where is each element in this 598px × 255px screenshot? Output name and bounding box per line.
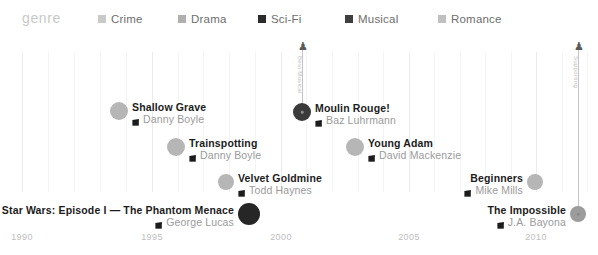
point-label-group: Star Wars: Episode I — The Phantom Menac… bbox=[2, 204, 234, 228]
gridline bbox=[511, 52, 512, 192]
data-point[interactable] bbox=[293, 103, 311, 121]
gridline bbox=[434, 52, 435, 192]
point-label-group: Shallow GraveDanny Boyle bbox=[132, 101, 206, 125]
director-line: David Mackenzie bbox=[368, 149, 461, 161]
director-name: Mike Mills bbox=[475, 184, 523, 196]
legend-swatch-icon bbox=[345, 15, 353, 23]
movie-title: Beginners bbox=[464, 172, 523, 184]
data-point[interactable] bbox=[167, 138, 185, 156]
legend-item-label: Romance bbox=[451, 13, 502, 25]
director-line: Danny Boyle bbox=[132, 113, 206, 125]
legend-item-label: Drama bbox=[191, 13, 227, 25]
award-caption: Best Musical bbox=[297, 56, 303, 94]
data-point[interactable] bbox=[570, 206, 586, 222]
axis-tick-label: 1995 bbox=[141, 232, 163, 242]
legend-swatch-icon bbox=[438, 15, 446, 23]
gridline bbox=[409, 52, 410, 192]
gridline bbox=[48, 52, 49, 192]
director-line: Mike Mills bbox=[464, 184, 523, 196]
clapperboard-icon bbox=[238, 186, 246, 194]
legend-item-sci-fi[interactable]: Sci-Fi bbox=[258, 13, 302, 25]
clapperboard-icon bbox=[464, 186, 472, 194]
award-trophy-icon: ♟ bbox=[574, 41, 584, 52]
award-connector-line: ♟Best Musical bbox=[302, 42, 303, 112]
clapperboard-icon bbox=[368, 151, 376, 159]
director-line: Baz Luhrmann bbox=[315, 114, 396, 126]
data-point[interactable] bbox=[527, 174, 543, 190]
legend-swatch-icon bbox=[178, 15, 186, 23]
legend-item-label: Crime bbox=[111, 13, 143, 25]
director-line: Danny Boyle bbox=[189, 149, 261, 161]
gridline bbox=[255, 52, 256, 192]
axis-tick-label: 2005 bbox=[398, 232, 420, 242]
gridline bbox=[536, 52, 537, 192]
gridline bbox=[126, 52, 127, 192]
timeline-plot: Shallow GraveDanny BoyleTrainspottingDan… bbox=[0, 34, 598, 230]
clapperboard-icon bbox=[189, 151, 197, 159]
movie-title: Young Adam bbox=[368, 137, 461, 149]
point-label-group: The ImpossibleJ.A. Bayona bbox=[487, 204, 566, 228]
point-label-group: Moulin Rouge!Baz Luhrmann bbox=[315, 102, 396, 126]
axis-tick-label: 1990 bbox=[11, 232, 33, 242]
point-label-group: Velvet GoldmineTodd Haynes bbox=[238, 172, 322, 196]
data-point-center bbox=[301, 111, 304, 114]
gridline bbox=[460, 52, 461, 192]
legend-swatch-icon bbox=[258, 15, 266, 23]
gridline bbox=[306, 52, 307, 192]
movie-title: Star Wars: Episode I — The Phantom Menac… bbox=[2, 204, 234, 216]
clapperboard-icon bbox=[155, 218, 163, 226]
movie-title: Shallow Grave bbox=[132, 101, 206, 113]
director-name: David Mackenzie bbox=[379, 149, 461, 161]
point-label-group: BeginnersMike Mills bbox=[464, 172, 523, 196]
clapperboard-icon bbox=[132, 115, 140, 123]
data-point[interactable] bbox=[346, 138, 364, 156]
axis-tick-label: 2010 bbox=[525, 232, 547, 242]
gridline bbox=[100, 52, 101, 192]
award-caption: Supporting bbox=[573, 56, 579, 88]
gridline bbox=[22, 52, 23, 192]
clapperboard-icon bbox=[315, 116, 323, 124]
data-point[interactable] bbox=[218, 174, 234, 190]
director-line: Todd Haynes bbox=[238, 184, 322, 196]
award-trophy-icon: ♟ bbox=[298, 41, 308, 52]
legend-item-label: Sci-Fi bbox=[271, 13, 302, 25]
gridline bbox=[74, 52, 75, 192]
director-name: Baz Luhrmann bbox=[326, 114, 396, 126]
point-label-group: Young AdamDavid Mackenzie bbox=[368, 137, 461, 161]
legend-item-musical[interactable]: Musical bbox=[345, 13, 398, 25]
legend-title: genre bbox=[22, 10, 61, 26]
data-point-center bbox=[577, 213, 580, 216]
legend-swatch-icon bbox=[98, 15, 106, 23]
gridline bbox=[587, 52, 588, 192]
legend-item-romance[interactable]: Romance bbox=[438, 13, 502, 25]
director-name: Todd Haynes bbox=[249, 184, 312, 196]
legend-item-label: Musical bbox=[358, 13, 398, 25]
director-name: George Lucas bbox=[166, 216, 234, 228]
movie-title: The Impossible bbox=[487, 204, 566, 216]
axis-tick-label: 2000 bbox=[270, 232, 292, 242]
legend-item-drama[interactable]: Drama bbox=[178, 13, 227, 25]
award-connector-line: ♟Supporting bbox=[578, 42, 579, 214]
legend-item-crime[interactable]: Crime bbox=[98, 13, 143, 25]
movie-title: Velvet Goldmine bbox=[238, 172, 322, 184]
director-name: Danny Boyle bbox=[200, 149, 261, 161]
movie-title: Trainspotting bbox=[189, 137, 261, 149]
gridline bbox=[485, 52, 486, 192]
gridline bbox=[562, 52, 563, 192]
clapperboard-icon bbox=[497, 218, 505, 226]
gridline bbox=[281, 52, 282, 192]
director-name: J.A. Bayona bbox=[508, 216, 566, 228]
legend: genre CrimeDramaSci-FiMusicalRomance bbox=[0, 0, 598, 34]
director-line: George Lucas bbox=[2, 216, 234, 228]
data-point[interactable] bbox=[110, 102, 128, 120]
movie-title: Moulin Rouge! bbox=[315, 102, 396, 114]
point-label-group: TrainspottingDanny Boyle bbox=[189, 137, 261, 161]
data-point[interactable] bbox=[238, 203, 260, 225]
gridline bbox=[229, 52, 230, 192]
director-name: Danny Boyle bbox=[143, 113, 204, 125]
x-axis: 19901995200020052010 bbox=[0, 230, 598, 255]
director-line: J.A. Bayona bbox=[487, 216, 566, 228]
